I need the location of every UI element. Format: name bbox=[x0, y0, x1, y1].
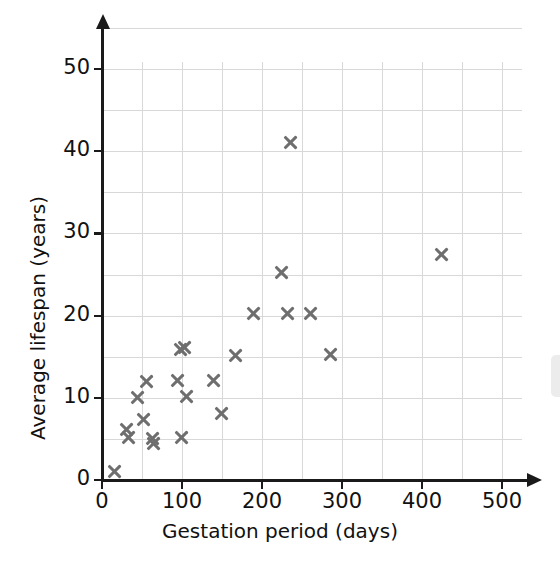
gridline-vertical bbox=[382, 62, 383, 480]
y-axis-tick-label: 0 bbox=[46, 466, 90, 490]
x-axis-tick-label: 0 bbox=[72, 489, 132, 513]
gridline-horizontal bbox=[102, 151, 522, 152]
y-axis-tick-label: 20 bbox=[46, 302, 90, 326]
x-axis-tick-label: 300 bbox=[312, 489, 372, 513]
x-axis-line bbox=[101, 479, 534, 482]
y-axis-tick bbox=[94, 232, 103, 234]
y-axis-title: Average lifespan (years) bbox=[26, 196, 50, 440]
gridline-vertical bbox=[222, 62, 223, 480]
gridline-vertical bbox=[342, 62, 343, 480]
x-axis-tick bbox=[421, 480, 423, 489]
gridline-horizontal bbox=[102, 192, 522, 193]
gridline-horizontal bbox=[102, 275, 522, 276]
gridline-vertical bbox=[302, 62, 303, 480]
x-axis-tick-label: 400 bbox=[392, 489, 452, 513]
gridline-vertical bbox=[462, 62, 463, 480]
x-axis-tick-label: 200 bbox=[232, 489, 292, 513]
x-axis-title: Gestation period (days) bbox=[0, 519, 560, 543]
gridline-horizontal bbox=[102, 439, 522, 440]
y-axis-tick bbox=[94, 150, 103, 152]
y-axis-tick bbox=[94, 68, 103, 70]
x-axis-tick bbox=[181, 480, 183, 489]
x-axis-arrow-icon bbox=[527, 473, 542, 487]
gridline-horizontal bbox=[102, 110, 522, 111]
y-axis-tick-label: 40 bbox=[46, 137, 90, 161]
gridline-horizontal bbox=[102, 69, 522, 70]
gridline-vertical bbox=[262, 62, 263, 480]
gridline-horizontal bbox=[102, 398, 522, 399]
x-axis-tick bbox=[501, 480, 503, 489]
page-edge-artifact bbox=[551, 355, 560, 397]
y-axis-tick bbox=[94, 315, 103, 317]
scatter-chart: 010203040500100200300400500 Gestation pe… bbox=[0, 0, 560, 570]
x-axis-tick-label: 100 bbox=[152, 489, 212, 513]
y-axis-tick-label: 50 bbox=[46, 55, 90, 79]
y-axis-tick bbox=[94, 397, 103, 399]
x-axis-tick bbox=[101, 480, 103, 489]
gridline-vertical bbox=[502, 62, 503, 480]
y-axis-tick-label: 30 bbox=[46, 219, 90, 243]
gridline-horizontal bbox=[102, 233, 522, 234]
gridline-horizontal bbox=[102, 28, 522, 29]
x-axis-tick bbox=[261, 480, 263, 489]
x-axis-tick bbox=[341, 480, 343, 489]
plot-area bbox=[102, 62, 522, 480]
y-axis-line bbox=[101, 26, 104, 482]
y-axis-arrow-icon bbox=[96, 14, 110, 29]
gridline-vertical bbox=[422, 62, 423, 480]
gridline-vertical bbox=[142, 62, 143, 480]
gridline-horizontal bbox=[102, 316, 522, 317]
x-axis-tick-label: 500 bbox=[472, 489, 532, 513]
y-axis-tick-label: 10 bbox=[46, 384, 90, 408]
gridline-vertical bbox=[182, 62, 183, 480]
gridline-horizontal bbox=[102, 357, 522, 358]
